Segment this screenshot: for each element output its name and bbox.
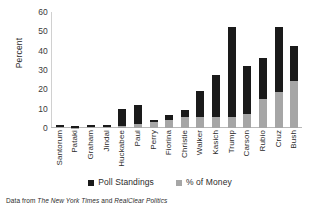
bar-segment-poll-standings[interactable] [275,27,283,91]
bar-column[interactable] [208,12,224,128]
bar-segment-poll-standings[interactable] [212,75,220,117]
plot-area [52,12,302,128]
bar-stack[interactable] [196,91,204,128]
x-axis-tick-label: Trump [228,130,236,153]
bar-column[interactable] [177,12,193,128]
chart-caption: Data from The New York Times and RealCle… [6,197,167,205]
x-axis-label-column: Perry [146,130,162,174]
bar-segment-percent-of-money[interactable] [87,127,95,128]
x-axis-tick-label: Carson [243,130,251,156]
bar-segment-poll-standings[interactable] [181,110,189,117]
bar-column[interactable] [130,12,146,128]
bar-segment-percent-of-money[interactable] [150,122,158,128]
bar-series-group [52,12,302,128]
legend-label: Poll Standings [98,178,154,187]
bar-segment-poll-standings[interactable] [134,105,142,124]
bar-stack[interactable] [56,125,64,128]
x-axis-tick-label: Bush [290,130,298,149]
bar-segment-percent-of-money[interactable] [275,92,283,128]
x-axis-label-column: Cruz [271,130,287,174]
chart-legend: Poll Standings% of Money [60,178,260,187]
bar-segment-percent-of-money[interactable] [212,117,220,128]
y-axis-tick-label: 20 [12,85,48,94]
y-axis-ticks: 6050403020100 [8,12,48,128]
x-axis-tick-label: Cruz [275,130,283,147]
x-axis-tick-label: Jindal [103,130,111,152]
caption-prefix: Data from [6,197,37,204]
x-axis-label-column: Jindal [99,130,115,174]
bar-column[interactable] [115,12,131,128]
bar-stack[interactable] [243,66,251,128]
y-axis-tick-label: 30 [12,66,48,75]
bar-segment-percent-of-money[interactable] [118,126,126,128]
bar-segment-poll-standings[interactable] [290,46,298,81]
bar-segment-percent-of-money[interactable] [103,127,111,128]
bar-stack[interactable] [290,46,298,128]
x-axis-tick-label: Kasich [212,130,220,155]
bar-stack[interactable] [181,110,189,128]
x-axis-tick-label: Paul [134,130,142,146]
bar-stack[interactable] [165,115,173,128]
bar-stack[interactable] [87,125,95,128]
bar-segment-percent-of-money[interactable] [181,117,189,128]
bar-stack[interactable] [259,58,267,128]
bar-column[interactable] [83,12,99,128]
x-axis-label-column: Bush [286,130,302,174]
bar-column[interactable] [161,12,177,128]
bar-segment-percent-of-money[interactable] [134,124,142,128]
bar-column[interactable] [99,12,115,128]
x-axis-tick-label: Santorum [56,130,64,165]
bar-column[interactable] [271,12,287,128]
bar-segment-percent-of-money[interactable] [243,114,251,129]
bar-column[interactable] [224,12,240,128]
x-axis-tick-label: Christie [181,130,189,158]
bar-column[interactable] [52,12,68,128]
x-axis-label-column: Paul [130,130,146,174]
bar-column[interactable] [68,12,84,128]
bar-stack[interactable] [275,27,283,128]
legend-item[interactable]: % of Money [176,178,232,187]
bar-column[interactable] [193,12,209,128]
bar-column[interactable] [240,12,256,128]
y-axis-tick-label: 60 [12,8,48,17]
bar-segment-poll-standings[interactable] [118,109,126,126]
bar-stack[interactable] [71,126,79,128]
x-axis-label-column: Trump [224,130,240,174]
x-axis-tick-label: Fiorina [165,130,173,155]
x-axis-label-column: Rubio [255,130,271,174]
bar-segment-poll-standings[interactable] [196,91,204,117]
bar-segment-percent-of-money[interactable] [56,127,64,128]
bar-stack[interactable] [150,120,158,128]
caption-source-1: The New York Times [37,197,99,204]
x-axis-tick-label: Perry [150,130,158,150]
x-axis-label-column: Santorum [52,130,68,174]
bar-column[interactable] [286,12,302,128]
bar-stack[interactable] [134,105,142,128]
bar-segment-percent-of-money[interactable] [165,120,173,128]
bar-stack[interactable] [118,109,126,128]
x-axis-labels: SantorumPatakiGrahamJindalHuckabeePaulPe… [52,130,302,174]
bar-column[interactable] [146,12,162,128]
bar-stack[interactable] [103,125,111,128]
bar-segment-percent-of-money[interactable] [228,117,236,128]
y-axis-tick-label: 10 [12,105,48,114]
legend-item[interactable]: Poll Standings [88,178,154,187]
x-axis-label-column: Kasich [208,130,224,174]
bar-stack[interactable] [228,27,236,128]
caption-conjunction: and [99,197,114,204]
bar-column[interactable] [255,12,271,128]
x-axis-label-column: Walker [193,130,209,174]
x-axis-label-column: Carson [240,130,256,174]
bar-stack[interactable] [212,75,220,128]
bar-segment-percent-of-money[interactable] [290,81,298,128]
bar-segment-poll-standings[interactable] [228,27,236,116]
x-axis-tick-label: Rubio [259,130,267,151]
bar-segment-poll-standings[interactable] [243,66,251,114]
x-axis-tick-label: Huckabee [118,130,126,167]
bar-segment-percent-of-money[interactable] [196,117,204,128]
caption-source-2: RealClear Politics [114,197,167,204]
bar-segment-percent-of-money[interactable] [259,99,267,128]
x-axis-tick-label: Walker [196,130,204,155]
x-axis-tick-label: Graham [87,130,95,160]
bar-segment-poll-standings[interactable] [259,58,267,99]
